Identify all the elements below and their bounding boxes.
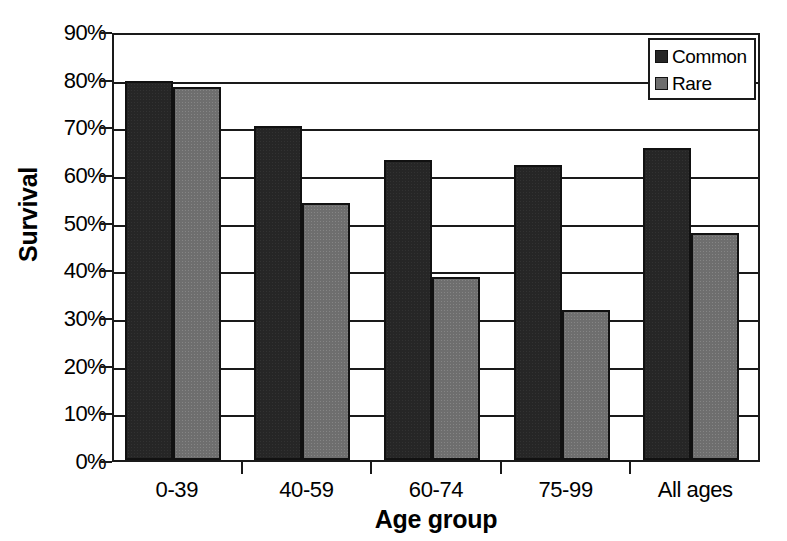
- bar-common-60-74: [384, 160, 432, 460]
- x-axis-title: Age group: [112, 505, 760, 534]
- y-axis-tick: [100, 270, 112, 272]
- x-axis-tick-label: All ages: [630, 478, 760, 502]
- y-axis-tick: [100, 223, 112, 225]
- y-axis-tick: [100, 127, 112, 129]
- y-axis-tick-label: 80%: [34, 70, 106, 92]
- bar-rare-75-99: [562, 310, 610, 460]
- x-axis-tick: [370, 462, 372, 474]
- bar-rare-40-59: [302, 203, 350, 460]
- x-axis-tick-label: 0-39: [112, 478, 242, 502]
- bar-common-All-ages: [643, 148, 691, 460]
- y-axis-tick: [100, 366, 112, 368]
- bar-common-75-99: [514, 165, 562, 460]
- y-axis-tick-label: 70%: [34, 117, 106, 139]
- y-axis-tick-label: 50%: [34, 213, 106, 235]
- y-axis-tick-label: 20%: [34, 356, 106, 378]
- y-axis-tick: [100, 413, 112, 415]
- legend-item-label: Rare: [672, 74, 712, 93]
- y-axis-tick-labels: 0%10%20%30%40%50%60%70%80%90%: [30, 0, 106, 541]
- y-axis-tick: [100, 80, 112, 82]
- legend-item-label: Common: [672, 47, 747, 66]
- x-axis-tick: [500, 462, 502, 474]
- y-axis-tick-label: 10%: [34, 403, 106, 425]
- y-axis-tick: [100, 318, 112, 320]
- y-axis-tick-label: 0%: [34, 451, 106, 473]
- x-axis-tick-label: 60-74: [371, 478, 501, 502]
- x-axis-tick-label: 40-59: [242, 478, 372, 502]
- bar-common-0-39: [125, 81, 173, 460]
- y-axis-tick-label: 60%: [34, 165, 106, 187]
- x-axis-tick: [241, 462, 243, 474]
- bar-chart: Survival 0%10%20%30%40%50%60%70%80%90% 0…: [0, 0, 787, 541]
- y-axis-tick: [100, 32, 112, 34]
- bar-rare-0-39: [173, 87, 221, 460]
- y-axis-tick-label: 30%: [34, 308, 106, 330]
- legend-swatch-icon: [655, 50, 668, 63]
- y-axis-tick-label: 40%: [34, 260, 106, 282]
- legend-item-rare: Rare: [655, 70, 754, 97]
- y-axis-tick: [100, 461, 112, 463]
- y-axis-tick-label: 90%: [34, 22, 106, 44]
- legend-swatch-icon: [655, 77, 668, 90]
- bar-common-40-59: [254, 126, 302, 460]
- legend-item-common: Common: [655, 43, 754, 70]
- bar-rare-60-74: [432, 277, 480, 460]
- chart-legend: CommonRare: [648, 38, 756, 100]
- bar-rare-All-ages: [691, 233, 739, 460]
- y-axis-tick: [100, 175, 112, 177]
- x-axis-tick-label: 75-99: [501, 478, 631, 502]
- x-axis-tick: [629, 462, 631, 474]
